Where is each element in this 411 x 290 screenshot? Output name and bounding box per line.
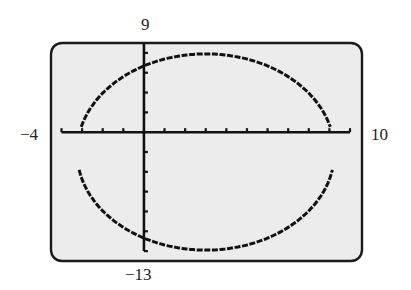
xmax-label: 10	[371, 126, 388, 143]
screen-background	[51, 43, 362, 261]
xmin-label: −4	[20, 126, 38, 143]
ymin-label: −13	[125, 266, 152, 283]
graph-screen	[0, 0, 411, 290]
ymax-label: 9	[141, 16, 150, 33]
